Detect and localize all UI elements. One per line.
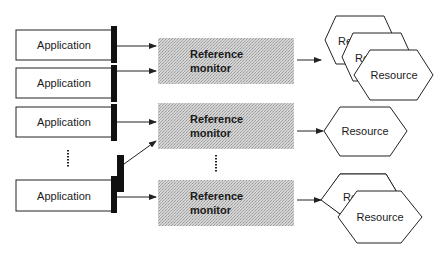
reference-monitor-diagram: Application Application Application Appl… <box>0 0 446 258</box>
monitor-label-line2: monitor <box>190 127 232 139</box>
resource-group-1: Re Re Resource <box>325 16 433 100</box>
interface-bar-shared <box>117 155 124 192</box>
monitor-label-line1: Reference <box>190 113 243 125</box>
application-label: Application <box>37 77 91 89</box>
reference-monitor-3: Reference monitor <box>158 180 294 226</box>
monitor-label-line2: monitor <box>190 204 232 216</box>
application-label: Application <box>37 116 91 128</box>
interface-bar <box>111 26 117 63</box>
interface-bar <box>111 65 117 102</box>
resource-label: Resource <box>356 211 403 223</box>
application-label: Application <box>37 190 91 202</box>
monitor-label-line1: Reference <box>190 190 243 202</box>
monitor-label-line2: monitor <box>190 62 232 74</box>
arrow <box>124 141 156 164</box>
resource-group-2: Resource <box>324 107 407 156</box>
resource-group-3: Re Resource <box>321 174 422 243</box>
monitor-label-line1: Reference <box>190 48 243 60</box>
interface-bar <box>111 104 117 141</box>
application-box-1: Application <box>16 30 112 60</box>
application-box-3: Application <box>16 107 112 137</box>
application-box-2: Application <box>16 68 112 98</box>
reference-monitor-2: Reference monitor <box>158 103 294 149</box>
application-box-4: Application <box>16 180 112 211</box>
application-label: Application <box>37 39 91 51</box>
resource-label: Resource <box>370 69 417 81</box>
interface-bar <box>111 176 117 213</box>
resource-label: Resource <box>341 125 388 137</box>
reference-monitor-1: Reference monitor <box>158 38 294 84</box>
